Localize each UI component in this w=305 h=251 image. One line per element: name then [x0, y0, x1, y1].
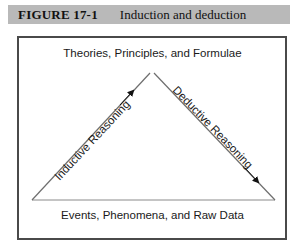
base-text-label: Events, Phenomena, and Raw Data [0, 209, 305, 221]
figure-caption-bar: FIGURE 17-1 Induction and deduction [8, 5, 290, 24]
apex-text-label: Theories, Principles, and Formulae [0, 47, 305, 59]
figure-caption-label: Induction and deduction [98, 7, 246, 23]
figure-number-label: FIGURE 17-1 [8, 7, 98, 23]
figure-container: FIGURE 17-1 Induction and deduction Indu… [0, 0, 305, 251]
